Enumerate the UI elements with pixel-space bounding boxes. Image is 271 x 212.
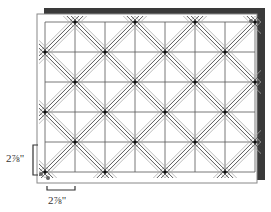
node-dot — [163, 50, 166, 53]
node-dot — [43, 110, 46, 113]
node-dot — [43, 50, 46, 53]
node-dot — [103, 50, 106, 53]
node-dot — [103, 110, 106, 113]
vertical-dimension-label: 2⅞" — [6, 152, 24, 164]
layout-diagram — [0, 0, 271, 212]
node-dot — [163, 170, 166, 173]
node-dot — [253, 20, 256, 23]
node-dot — [253, 80, 256, 83]
node-dot — [133, 20, 136, 23]
corner-marker-top-right — [249, 19, 253, 23]
node-dot — [73, 20, 76, 23]
node-dot — [133, 80, 136, 83]
node-dot — [223, 50, 226, 53]
node-dot — [193, 80, 196, 83]
node-dot — [223, 110, 226, 113]
node-dot — [73, 80, 76, 83]
node-dot — [43, 170, 46, 173]
node-dot — [193, 140, 196, 143]
horizontal-dimension-label: 2⅞" — [48, 194, 66, 206]
node-dot — [103, 170, 106, 173]
corner-marker-bottom-left-2 — [46, 176, 50, 180]
board-shadow-top — [44, 8, 265, 14]
node-dot — [163, 110, 166, 113]
node-dot — [253, 140, 256, 143]
node-dot — [73, 140, 76, 143]
corner-marker-bottom-left-1 — [39, 172, 43, 176]
horizontal-dimension-bracket — [47, 186, 75, 190]
node-dot — [133, 140, 136, 143]
node-dot — [193, 20, 196, 23]
node-dot — [223, 170, 226, 173]
